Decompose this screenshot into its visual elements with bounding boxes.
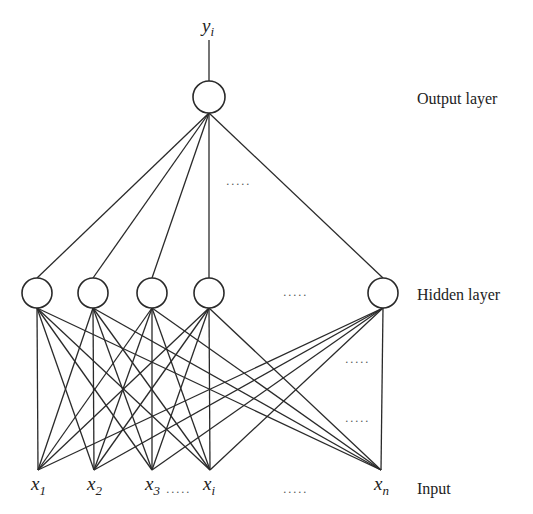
input-label-xi: xi [202,473,215,498]
input-label-x2: x2 [86,473,102,498]
output-variable-label: yi [200,15,214,39]
edge-output-h2 [93,113,209,278]
edge-h2-x2 [93,308,94,470]
hidden-node-h4 [194,278,224,308]
input-label-xn: xn [373,473,389,498]
input-label-x1: x1 [30,473,46,498]
hidden-to-input-edges [37,308,383,470]
hidden-layer-label: Hidden layer [417,286,501,304]
hidden-node-h1 [22,278,52,308]
hidden-layer-nodes [22,278,398,308]
edge-h1-x1 [37,308,38,470]
hidden-node-h3 [137,278,167,308]
ellipsis-dots: .............................. [166,175,370,496]
dots-right-upper: ..... [345,353,370,366]
edge-h5-xn [381,308,383,470]
input-layer-label: Input [417,480,451,498]
edge-output-h3 [152,113,209,278]
edge-h4-xn [209,308,381,470]
edge-h2-x1 [38,308,93,470]
output-node [193,81,225,113]
dots-output-hidden: ..... [226,175,251,188]
input-variable-labels: x1x2x3xixn [30,473,389,498]
hidden-node-h2 [78,278,108,308]
hidden-node-h5 [368,278,398,308]
edge-output-h5 [209,113,383,278]
output-to-hidden-edges [37,113,383,278]
input-label-x3: x3 [144,473,160,498]
output-layer-label: Output layer [417,90,498,108]
dots-input-row: ..... [283,483,308,496]
edge-output-h1 [37,113,209,278]
dots-input-x3-xi: ..... [166,483,191,496]
dots-right-lower: ..... [345,412,370,425]
neural-network-diagram: .............................. yi x1x2x3… [0,0,533,514]
dots-hidden-row: ..... [283,286,308,299]
